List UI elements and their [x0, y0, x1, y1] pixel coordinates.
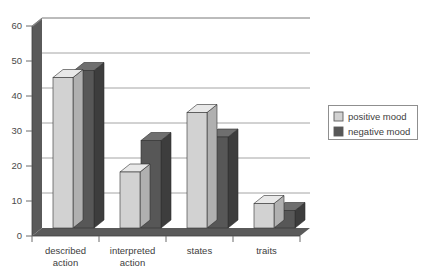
legend-swatch-positive-mood — [334, 112, 343, 121]
y-tick-label-20: 20 — [11, 160, 22, 171]
bar-positive-2-front — [187, 113, 207, 229]
y-axis-wall — [32, 18, 42, 236]
bar-negative-0-side — [94, 63, 104, 229]
chart-legend: positive moodnegative mood — [329, 106, 418, 140]
bar-negative-1-side — [161, 133, 171, 229]
bar-positive-1 — [120, 164, 150, 228]
bar-positive-2-side — [207, 105, 217, 229]
x-axis-floor — [32, 228, 310, 236]
x-category-label-1: action — [120, 257, 145, 268]
y-axis-ticks: 0102030405060 — [11, 20, 32, 241]
bar-positive-0-front — [53, 78, 73, 229]
bar-positive-2 — [187, 105, 217, 229]
bar-positive-3-front — [254, 204, 274, 229]
x-axis-ticks: describedactioninterpretedactionstatestr… — [32, 236, 300, 268]
bar-negative-2-side — [228, 129, 238, 228]
chart-canvas: 0102030405060 describedactioninterpreted… — [0, 0, 430, 272]
bar-positive-1-side — [140, 164, 150, 228]
bar-chart: 0102030405060 describedactioninterpreted… — [0, 0, 430, 272]
legend-label-positive-mood: positive mood — [348, 111, 407, 122]
x-category-label-1: interpreted — [110, 245, 155, 256]
bar-positive-0-side — [73, 70, 83, 229]
y-tick-label-60: 60 — [11, 20, 22, 31]
legend-label-negative-mood: negative mood — [348, 126, 410, 137]
y-tick-label-0: 0 — [17, 230, 22, 241]
legend-swatch-negative-mood — [334, 127, 343, 136]
x-category-label-0: action — [53, 257, 78, 268]
x-category-label-3: traits — [256, 245, 277, 256]
x-category-label-2: states — [187, 245, 213, 256]
bar-positive-3 — [254, 196, 284, 229]
y-tick-label-30: 30 — [11, 125, 22, 136]
y-tick-label-10: 10 — [11, 195, 22, 206]
bar-positive-1-front — [120, 172, 140, 228]
bar-positive-0 — [53, 70, 83, 229]
y-tick-label-50: 50 — [11, 55, 22, 66]
y-tick-label-40: 40 — [11, 90, 22, 101]
x-category-label-0: described — [45, 245, 86, 256]
